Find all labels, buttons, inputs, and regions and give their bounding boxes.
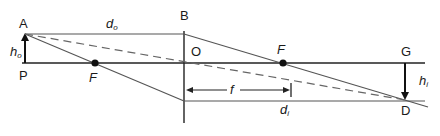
- label-o: O: [191, 44, 201, 59]
- focal-point-left: [91, 59, 98, 66]
- label-ho: ho: [10, 44, 22, 60]
- label-do: do: [106, 16, 118, 32]
- label-f: f: [230, 82, 235, 97]
- label-p: P: [19, 68, 28, 83]
- label-a: A: [19, 16, 28, 31]
- lens-ray-diagram: A P B O F F G D ho do f di hi: [0, 0, 440, 136]
- label-g: G: [401, 44, 411, 59]
- f-arrowhead-right: [283, 87, 290, 93]
- f-arrowhead-left: [186, 87, 193, 93]
- diagram-canvas: A P B O F F G D ho do f di hi: [0, 0, 440, 136]
- focal-point-right: [279, 59, 286, 66]
- label-d: D: [401, 103, 410, 118]
- label-di: di: [280, 102, 289, 118]
- ray-through-left-f: [25, 34, 184, 101]
- label-f-left: F: [89, 70, 98, 85]
- label-b: B: [180, 8, 189, 23]
- label-hi: hi: [419, 73, 428, 89]
- label-f-right: F: [277, 42, 286, 57]
- ray-refracted-through-f: [184, 34, 428, 107]
